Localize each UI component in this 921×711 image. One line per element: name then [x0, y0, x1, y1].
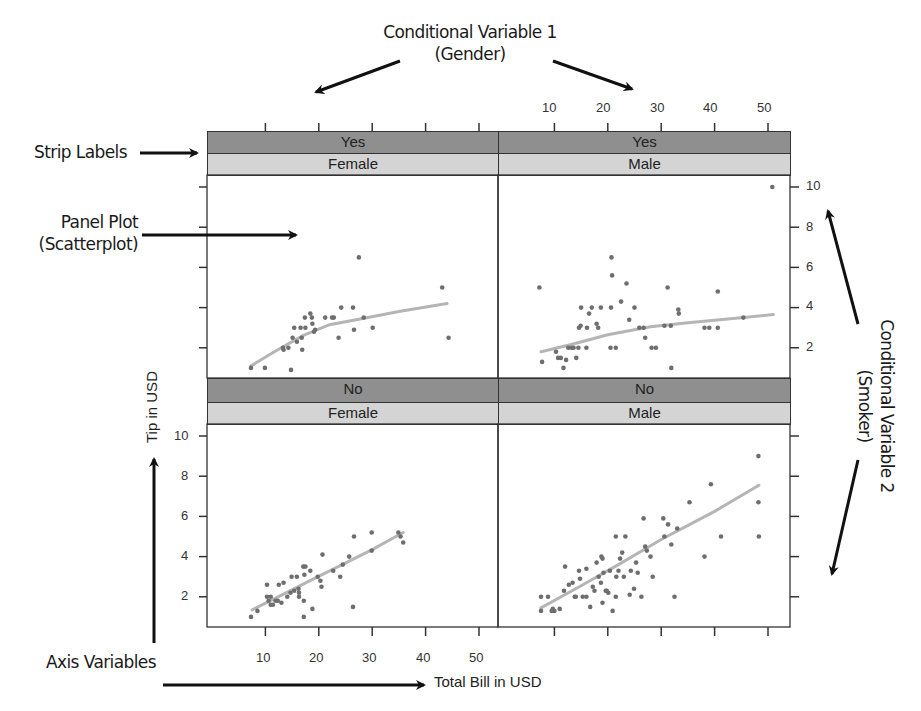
data-point [675, 526, 680, 531]
data-point [369, 548, 374, 553]
arrow-smoker-up [828, 211, 858, 324]
arrow-smoker-down [832, 460, 858, 574]
data-point [666, 522, 671, 527]
data-point [719, 534, 724, 539]
data-point [577, 568, 582, 573]
data-point [279, 601, 284, 606]
panel-yes-male [537, 185, 774, 371]
data-point [336, 336, 341, 341]
data-point [571, 346, 576, 351]
data-point [319, 585, 324, 590]
data-point [624, 281, 629, 286]
data-point [584, 346, 589, 351]
panel-no-female [249, 530, 406, 619]
data-point [614, 534, 619, 539]
data-point [352, 327, 357, 332]
data-point [600, 601, 605, 606]
annotation-arrows [140, 61, 858, 685]
data-point [396, 530, 401, 535]
data-point [277, 582, 282, 587]
data-point [576, 346, 581, 351]
data-point [266, 599, 271, 604]
data-point [702, 554, 707, 559]
data-point [302, 572, 307, 577]
data-point [370, 325, 375, 330]
data-point [303, 315, 308, 320]
data-point [677, 311, 682, 316]
data-point [702, 325, 707, 330]
data-point [662, 323, 667, 328]
data-point [614, 574, 619, 579]
data-point [285, 595, 290, 600]
data-point [649, 346, 654, 351]
panel-frame [207, 424, 498, 627]
data-point [574, 356, 579, 361]
data-point [596, 574, 601, 579]
data-point [641, 325, 646, 330]
data-point [289, 368, 294, 373]
loess-smooth-line [251, 304, 447, 366]
data-point [627, 317, 632, 322]
data-point [609, 305, 614, 310]
arrow-gender-right [553, 61, 632, 89]
data-point [587, 311, 592, 316]
data-point [635, 570, 640, 575]
data-point [600, 556, 605, 561]
panel-frames [207, 175, 790, 627]
data-point [281, 348, 286, 353]
data-point [341, 562, 346, 567]
data-point [249, 366, 254, 371]
data-point [554, 350, 559, 355]
data-point [562, 589, 567, 594]
data-point [297, 591, 302, 596]
data-point [302, 615, 307, 620]
data-point [620, 550, 625, 555]
data-point [557, 607, 562, 612]
data-point [559, 356, 564, 361]
data-point [610, 609, 615, 614]
data-point [255, 609, 260, 614]
data-point [310, 315, 315, 320]
data-point [676, 307, 681, 312]
data-point [347, 554, 352, 559]
data-point [632, 587, 637, 592]
data-point [650, 574, 655, 579]
data-point [614, 595, 619, 600]
data-point [594, 321, 599, 326]
data-point [574, 595, 579, 600]
data-point [756, 454, 761, 459]
data-point [584, 566, 589, 571]
data-point [672, 595, 677, 600]
data-point [286, 346, 291, 351]
data-point [323, 315, 328, 320]
data-point [608, 346, 613, 351]
data-point [757, 534, 762, 539]
panel-frame [207, 175, 498, 378]
data-point [648, 554, 653, 559]
panel-no-male [539, 454, 762, 613]
data-point [295, 340, 300, 345]
data-point [296, 587, 301, 592]
data-point [331, 568, 336, 573]
data-point [315, 574, 320, 579]
data-point [563, 564, 568, 569]
data-point [300, 348, 305, 353]
data-point [303, 564, 308, 569]
data-point [263, 366, 268, 371]
data-point [271, 603, 276, 608]
data-point [601, 570, 606, 575]
data-point [634, 560, 639, 565]
data-point [539, 609, 544, 614]
data-point [298, 325, 303, 330]
data-point [645, 548, 650, 553]
data-point [578, 323, 583, 328]
data-point [592, 589, 597, 594]
data-point [357, 255, 362, 260]
panels [249, 185, 775, 620]
data-point [570, 580, 575, 585]
data-point [662, 534, 667, 539]
data-point [669, 366, 674, 371]
data-point [308, 568, 313, 573]
data-point [669, 323, 674, 328]
data-point [338, 574, 343, 579]
